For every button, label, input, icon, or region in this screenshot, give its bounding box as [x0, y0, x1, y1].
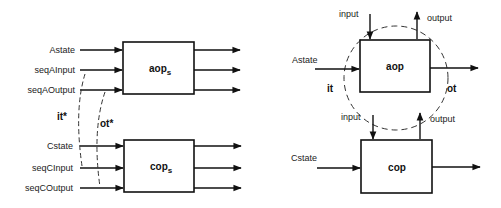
aop-output-label: output [427, 13, 453, 23]
it-label: it [327, 83, 334, 94]
right-diagram: aop input output Astate it ot input outp… [291, 9, 480, 193]
it-star-label: it* [57, 111, 67, 122]
ot-link [97, 92, 105, 187]
cops-label: cops [150, 161, 173, 175]
cstate-right-label: Cstate [291, 153, 317, 163]
ot-label: ot [447, 83, 457, 94]
seqcoutput-label: seqCOutput [25, 183, 74, 193]
astate-right-label: Astate [292, 55, 318, 65]
cop-label: cop [388, 162, 406, 173]
seqcinput-label: seqCInput [32, 163, 74, 173]
diagram-canvas: aops Astate seqAInput seqAOutput cops Cs… [0, 0, 501, 208]
cop-input-label: input [341, 112, 361, 122]
aops-label: aops [149, 63, 172, 77]
cstate-label: Cstate [47, 141, 73, 151]
astate-label: Astate [49, 45, 75, 55]
aop-input-label: input [339, 9, 359, 19]
seqainput-label: seqAInput [34, 65, 75, 75]
left-diagram: aops Astate seqAInput seqAOutput cops Cs… [25, 42, 241, 193]
seqaoutput-label: seqAOutput [27, 85, 75, 95]
cop-output-label: output [430, 114, 456, 124]
aop-label: aop [386, 61, 404, 72]
ot-star-label: ot* [100, 118, 113, 129]
it-link [79, 74, 85, 166]
